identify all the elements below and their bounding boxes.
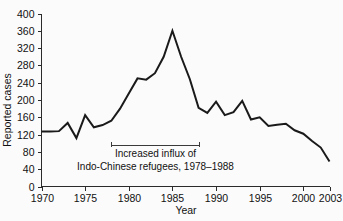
- y-axis-tick-labels: 04080120160200240280320360400: [17, 8, 35, 193]
- annotation-text-line-2: Indo-Chinese refugees, 1978–1988: [77, 161, 234, 172]
- x-axis-title: Year: [175, 204, 197, 216]
- annotation-text-line-1: Increased influx of: [115, 148, 196, 159]
- x-tick-label: 1985: [161, 192, 185, 204]
- y-axis-title: Reported cases: [1, 73, 13, 147]
- y-tick-label: 160: [17, 111, 35, 123]
- data-series-line: [42, 31, 330, 162]
- x-tick-label: 1995: [249, 192, 273, 204]
- y-tick-label: 120: [17, 129, 35, 141]
- y-tick-label: 280: [17, 59, 35, 71]
- y-tick-label: 320: [17, 42, 35, 54]
- x-tick-label: 1970: [31, 192, 55, 204]
- y-tick-label: 360: [17, 25, 35, 37]
- x-tick-label: 1975: [74, 192, 98, 204]
- y-axis-ticks: [38, 15, 42, 188]
- y-tick-label: 40: [23, 163, 35, 175]
- y-tick-label: 400: [17, 8, 35, 20]
- x-tick-label: 2000: [292, 192, 316, 204]
- annotation-bracket: [112, 142, 200, 147]
- x-tick-label: 1980: [118, 192, 142, 204]
- y-tick-label: 200: [17, 94, 35, 106]
- x-axis-ticks: [43, 187, 331, 191]
- y-tick-label: 240: [17, 77, 35, 89]
- x-tick-label: 2003: [319, 192, 343, 204]
- line-chart: 04080120160200240280320360400 1970197519…: [0, 0, 343, 221]
- x-axis-tick-labels: 19701975198019851990199520002003: [31, 192, 343, 204]
- x-tick-label: 1990: [205, 192, 229, 204]
- y-tick-label: 80: [23, 146, 35, 158]
- chart-canvas: 04080120160200240280320360400 1970197519…: [0, 0, 343, 221]
